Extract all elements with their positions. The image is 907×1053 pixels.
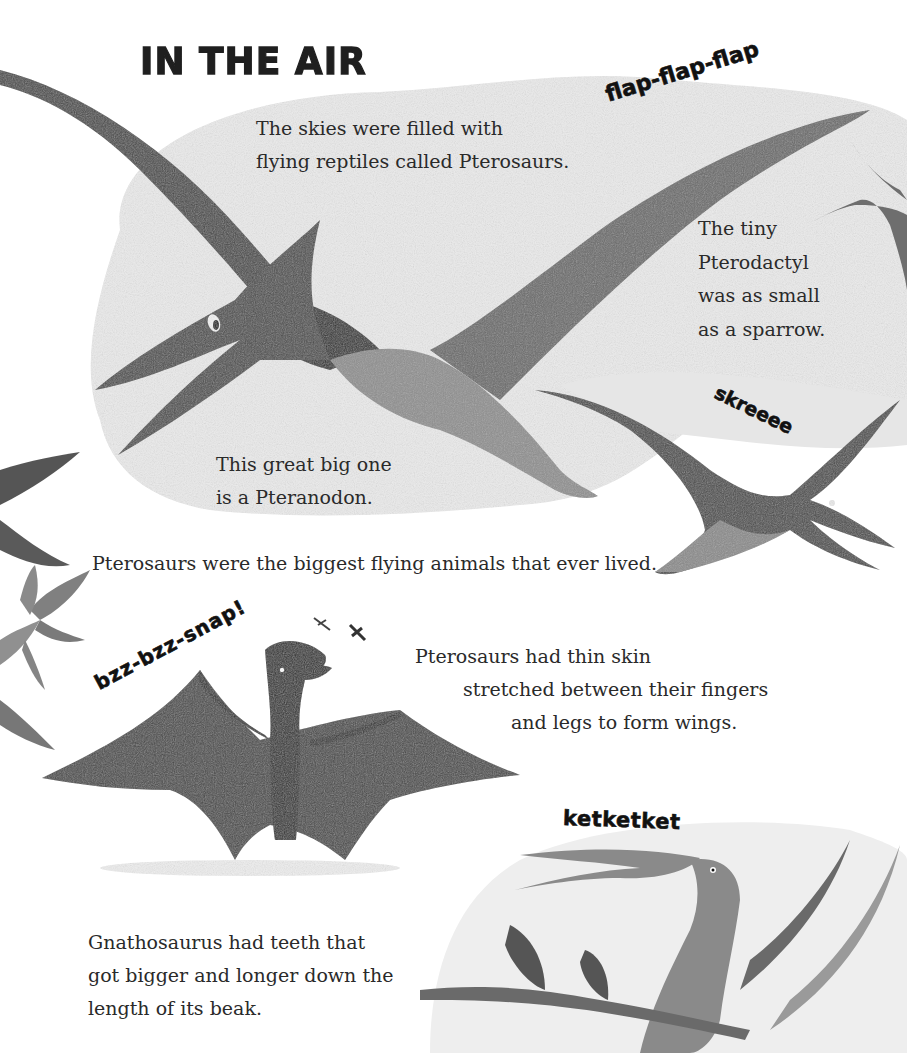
caption-line: was as small — [698, 279, 825, 313]
caption-gnathosaurus: Gnathosaurus had teeth that got bigger a… — [88, 926, 394, 1025]
caption-line: stretched between their fingers — [415, 673, 768, 706]
sound-effect-ketketket: ketketket — [563, 806, 681, 834]
caption-line: Pterosaurs were the biggest flying anima… — [92, 547, 657, 580]
caption-pterodactyl: The tiny Pterodactyl was as small as a s… — [698, 212, 825, 346]
caption-line: flying reptiles called Pterosaurs. — [256, 145, 569, 178]
caption-line: got bigger and longer down the — [88, 959, 394, 992]
caption-biggest: Pterosaurs were the biggest flying anima… — [92, 547, 657, 580]
caption-line: length of its beak. — [88, 992, 394, 1025]
caption-line: Pterosaurs had thin skin — [415, 640, 768, 673]
book-page: IN THE AIR flap-flap-flap skreeee bzz-bz… — [0, 0, 907, 1053]
caption-line: Gnathosaurus had teeth that — [88, 926, 394, 959]
dragonflies-illustration — [314, 618, 365, 640]
caption-line: Pterodactyl — [698, 246, 825, 280]
palm-leaves-illustration — [0, 452, 90, 750]
caption-wings: Pterosaurs had thin skin stretched betwe… — [415, 640, 768, 739]
caption-line: as a sparrow. — [698, 313, 825, 347]
caption-line: The tiny — [698, 212, 825, 246]
caption-intro: The skies were filled with flying reptil… — [256, 112, 569, 178]
gnathosaurus-illustration — [420, 822, 907, 1053]
caption-line: is a Pteranodon. — [216, 481, 392, 514]
caption-line: and legs to form wings. — [415, 706, 768, 739]
caption-line: The skies were filled with — [256, 112, 569, 145]
page-title: IN THE AIR — [140, 39, 367, 82]
caption-pteranodon: This great big one is a Pteranodon. — [216, 448, 392, 514]
caption-line: This great big one — [216, 448, 392, 481]
